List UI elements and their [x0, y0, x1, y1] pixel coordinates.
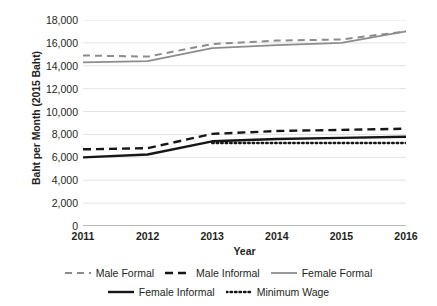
x-tick-label: 2012: [126, 230, 170, 242]
y-tick-label: 14,000: [32, 61, 78, 71]
legend-swatch-solid: [108, 287, 134, 297]
y-tick-label: 2,000: [32, 198, 78, 208]
x-tick-label: 2011: [61, 230, 105, 242]
legend-item-female-informal[interactable]: Female Informal: [108, 286, 215, 298]
legend-item-minimum-wage[interactable]: Minimum Wage: [226, 286, 330, 298]
series-line-female-informal: [83, 137, 406, 158]
plot-canvas: [83, 20, 406, 226]
chart-legend: Male FormalMale InformalFemale Formal Fe…: [0, 263, 437, 301]
legend-row-bottom: Female InformalMinimum Wage: [0, 282, 437, 301]
plot-area: [83, 20, 406, 226]
y-tick-label: 6,000: [32, 152, 78, 162]
chart-figure: Baht per Month (2015 Baht) 02,0004,0006,…: [0, 0, 437, 306]
legend-item-male-informal[interactable]: Male Informal: [165, 267, 260, 279]
y-tick-label: 16,000: [32, 38, 78, 48]
y-tick-label: 10,000: [32, 107, 78, 117]
legend-swatch-solid: [271, 268, 297, 278]
x-tick-label: 2013: [190, 230, 234, 242]
x-axis-title: Year: [83, 245, 406, 257]
legend-swatch-dotted: [226, 287, 252, 297]
x-axis-ticks: 201120122013201420152016: [83, 230, 406, 246]
legend-swatch-dashed: [65, 268, 91, 278]
legend-item-male-formal[interactable]: Male Formal: [65, 267, 154, 279]
y-tick-label: 4,000: [32, 175, 78, 185]
y-axis-ticks: 02,0004,0006,0008,00010,00012,00014,0001…: [30, 0, 78, 306]
legend-swatch-dashed: [165, 268, 191, 278]
x-tick-label: 2016: [384, 230, 428, 242]
legend-label: Male Informal: [196, 267, 260, 279]
x-tick-label: 2014: [255, 230, 299, 242]
y-tick-label: 12,000: [32, 84, 78, 94]
y-tick-label: 18,000: [32, 15, 78, 25]
legend-label: Minimum Wage: [257, 286, 330, 298]
legend-label: Female Formal: [302, 267, 373, 279]
legend-item-female-formal[interactable]: Female Formal: [271, 267, 373, 279]
legend-row-top: Male FormalMale InformalFemale Formal: [0, 263, 437, 282]
legend-label: Male Formal: [96, 267, 154, 279]
x-tick-label: 2015: [319, 230, 363, 242]
legend-label: Female Informal: [139, 286, 215, 298]
series-line-female-formal: [83, 31, 406, 62]
series-line-male-formal: [83, 31, 406, 56]
cut-off-text: [40, 0, 370, 5]
y-tick-label: 8,000: [32, 129, 78, 139]
